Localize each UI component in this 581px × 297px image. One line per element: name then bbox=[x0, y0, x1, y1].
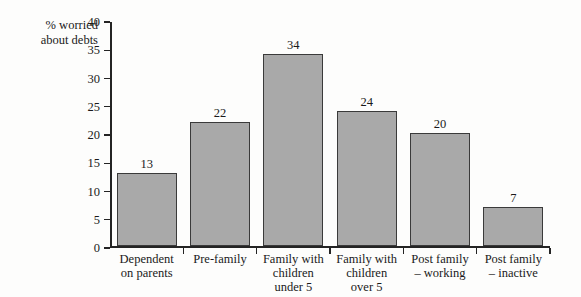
category-label-1: Pre-family bbox=[183, 252, 256, 266]
y-tick-25: 25 bbox=[104, 106, 110, 107]
bar-value-label-1: 22 bbox=[214, 106, 227, 121]
category-label-0-line-1: on parents bbox=[110, 266, 183, 280]
category-label-4-line-0: Post family bbox=[403, 252, 476, 266]
category-label-2-line-1: children bbox=[257, 266, 330, 280]
y-tick-35: 35 bbox=[104, 50, 110, 51]
y-tick-label-10: 10 bbox=[88, 184, 101, 199]
category-label-3-line-2: over 5 bbox=[330, 280, 403, 294]
category-label-2-line-0: Family with bbox=[257, 252, 330, 266]
y-tick-30: 30 bbox=[104, 78, 110, 79]
y-tick-15: 15 bbox=[104, 163, 110, 164]
y-axis-title: % worried about debts bbox=[6, 18, 98, 47]
y-tick-label-15: 15 bbox=[88, 156, 101, 171]
y-axis-title-line-2: about debts bbox=[6, 33, 98, 48]
category-label-0: Dependenton parents bbox=[110, 252, 183, 280]
bar-value-label-3: 24 bbox=[360, 95, 373, 110]
y-tick-label-40: 40 bbox=[88, 15, 101, 30]
category-label-4-line-1: – working bbox=[403, 266, 476, 280]
category-label-5-line-0: Post family bbox=[477, 252, 550, 266]
y-tick-5: 5 bbox=[104, 219, 110, 220]
y-tick-10: 10 bbox=[104, 191, 110, 192]
category-label-5: Post family– inactive bbox=[477, 252, 550, 280]
category-label-2-line-2: under 5 bbox=[257, 280, 330, 294]
category-label-3: Family withchildrenover 5 bbox=[330, 252, 403, 295]
y-tick-label-25: 25 bbox=[88, 99, 101, 114]
y-tick-40: 40 bbox=[104, 21, 110, 22]
bar-5: 7 bbox=[483, 207, 543, 247]
category-label-1-line-0: Pre-family bbox=[183, 252, 256, 266]
category-label-5-line-1: – inactive bbox=[477, 266, 550, 280]
bar-value-label-2: 34 bbox=[287, 38, 300, 53]
bar-0: 13 bbox=[117, 173, 177, 246]
category-label-2: Family withchildrenunder 5 bbox=[257, 252, 330, 295]
category-label-3-line-0: Family with bbox=[330, 252, 403, 266]
bar-2: 34 bbox=[263, 54, 323, 246]
y-axis-title-line-1: % worried bbox=[6, 18, 98, 33]
category-label-4: Post family– working bbox=[403, 252, 476, 280]
y-axis-line bbox=[110, 22, 112, 248]
y-tick-label-35: 35 bbox=[88, 43, 101, 58]
plot-area: 0510152025303540 13223424207 bbox=[110, 22, 550, 248]
bar-chart: % worried about debts 0510152025303540 1… bbox=[0, 0, 581, 297]
y-tick-label-20: 20 bbox=[88, 128, 101, 143]
y-tick-label-30: 30 bbox=[88, 71, 101, 86]
bar-1: 22 bbox=[190, 122, 250, 246]
category-label-3-line-1: children bbox=[330, 266, 403, 280]
category-label-0-line-0: Dependent bbox=[110, 252, 183, 266]
bar-3: 24 bbox=[337, 111, 397, 247]
bar-value-label-0: 13 bbox=[140, 157, 153, 172]
y-tick-0: 0 bbox=[104, 247, 110, 248]
y-tick-20: 20 bbox=[104, 134, 110, 135]
bar-value-label-5: 7 bbox=[510, 191, 516, 206]
bar-value-label-4: 20 bbox=[434, 117, 447, 132]
y-tick-label-0: 0 bbox=[94, 240, 100, 255]
y-tick-label-5: 5 bbox=[94, 212, 100, 227]
bar-4: 20 bbox=[410, 133, 470, 246]
